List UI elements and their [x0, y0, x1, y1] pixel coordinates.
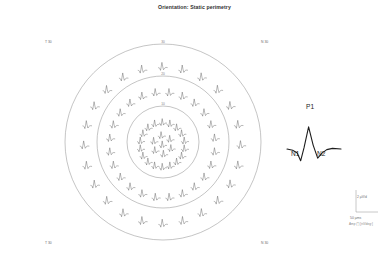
- mferg-trace: [151, 162, 159, 169]
- mferg-trace: [145, 124, 153, 131]
- mferg-trace: [117, 109, 126, 117]
- mferg-trace: [178, 65, 188, 73]
- mferg-trace: [173, 124, 181, 131]
- mferg-trace: [90, 102, 100, 110]
- mferg-trace: [178, 152, 186, 159]
- mferg-trace: [145, 158, 153, 165]
- mferg-trace: [159, 163, 167, 170]
- mferg-trace: [214, 85, 224, 93]
- waveform-label-p1: P1: [306, 103, 314, 110]
- mferg-trace: [138, 65, 148, 73]
- mferg-trace: [126, 183, 135, 191]
- mferg-trace: [90, 180, 100, 188]
- scale-amplitude-label: 2 µV/d: [357, 195, 367, 199]
- perimetry-figure: Orientation: Static perimetry T 30 N 30 …: [0, 0, 389, 263]
- mferg-trace: [103, 85, 113, 93]
- mferg-trace: [158, 219, 168, 227]
- mferg-trace: [181, 145, 189, 152]
- mferg-trace: [226, 101, 236, 109]
- mferg-trace: [200, 109, 209, 117]
- ring-circle-middle: [97, 76, 229, 208]
- waveform-label-n2: N2: [317, 150, 325, 157]
- mferg-trace: [158, 132, 166, 139]
- ring-circle-outer: [65, 44, 261, 240]
- mferg-trace: [159, 119, 167, 126]
- mferg-trace: [106, 134, 115, 142]
- mferg-trace: [211, 134, 220, 142]
- mferg-trace: [80, 141, 90, 149]
- mferg-trace: [138, 217, 148, 225]
- waveform-label-n1: N1: [291, 150, 299, 157]
- mferg-trace: [119, 73, 128, 81]
- mferg-trace: [226, 180, 236, 188]
- mferg-trace: [211, 148, 220, 156]
- mferg-trace: [178, 130, 186, 137]
- scale-time-label: 50 µms: [350, 216, 361, 220]
- mferg-trace: [152, 193, 161, 201]
- mferg-trace: [207, 161, 216, 169]
- mferg-trace: [151, 120, 159, 127]
- scale-bar-path: [356, 190, 378, 212]
- mferg-trace: [140, 152, 148, 159]
- mferg-trace: [234, 161, 244, 169]
- mferg-trace: [137, 137, 145, 144]
- mferg-trace: [103, 196, 113, 204]
- mferg-trace: [179, 190, 188, 198]
- mferg-trace: [168, 145, 176, 152]
- mferg-trace: [117, 173, 126, 181]
- mferg-trace: [152, 147, 160, 154]
- mferg-trace: [214, 196, 224, 204]
- mferg-trace: [158, 62, 168, 70]
- mferg-trace: [191, 99, 200, 107]
- mferg-trace: [200, 173, 209, 181]
- mferg-trace: [110, 161, 119, 169]
- mferg-trace: [167, 162, 175, 169]
- mferg-trace: [166, 135, 174, 142]
- mferg-trace: [138, 92, 147, 100]
- mferg-trace: [138, 190, 147, 198]
- scale-unit-label: Amp (*) [nV/deg²]: [349, 222, 373, 226]
- scale-bar-legend: 2 µV/d 50 µms Amp (*) [nV/deg²]: [348, 188, 388, 232]
- mferg-trace: [179, 216, 189, 224]
- mferg-trace: [159, 141, 167, 148]
- mferg-trace: [198, 209, 208, 217]
- mferg-trace: [110, 121, 119, 128]
- mferg-trace: [152, 89, 161, 97]
- mferg-trace: [234, 120, 244, 128]
- mferg-trace: [167, 120, 175, 127]
- mferg-trace: [150, 137, 158, 144]
- mferg-trace: [106, 148, 115, 156]
- mferg-trace: [181, 137, 189, 144]
- mferg-trace: [119, 209, 129, 217]
- mferg-trace: [207, 121, 216, 129]
- mferg-trace: [82, 121, 92, 129]
- mferg-trace: [165, 193, 174, 201]
- mferg-trace: [237, 141, 247, 149]
- mferg-trace: [197, 73, 207, 81]
- mferg-trace: [137, 145, 145, 152]
- mferg-trace: [126, 99, 135, 107]
- mferg-trace: [191, 183, 200, 191]
- representative-waveform-legend: P1 N1 N2: [283, 103, 349, 165]
- mferg-trace: [165, 88, 174, 96]
- mferg-trace: [179, 92, 188, 100]
- mferg-trace: [83, 161, 93, 169]
- mferg-trace: [160, 150, 168, 157]
